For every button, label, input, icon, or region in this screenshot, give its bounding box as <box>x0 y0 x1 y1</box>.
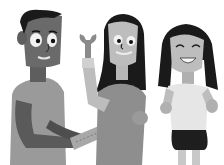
illustration <box>0 0 224 165</box>
smiling-girl <box>158 24 218 165</box>
man-figure <box>10 10 82 165</box>
wrench-icon <box>80 34 97 58</box>
